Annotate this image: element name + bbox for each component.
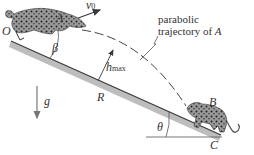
trajectory-label-text: trajectory of	[158, 25, 215, 37]
label-g: g	[44, 95, 50, 107]
label-a: A	[56, 12, 63, 24]
label-v0-sub: 0	[91, 2, 95, 11]
incline-plane	[9, 41, 221, 141]
label-o: O	[2, 25, 11, 37]
label-theta: θ	[157, 121, 163, 133]
trajectory-label: parabolic trajectory of A	[158, 14, 222, 37]
trajectory-label-var: A	[215, 25, 222, 37]
trajectory-label-line1: parabolic	[158, 14, 222, 25]
label-c: C	[210, 139, 218, 151]
label-v0: v0	[86, 0, 95, 11]
label-r: R	[97, 91, 104, 103]
label-hmax: hmax	[106, 61, 126, 73]
cheetah-a-leaping	[6, 8, 86, 40]
label-hmax-sub: max	[112, 64, 126, 73]
label-b: B	[209, 96, 216, 108]
trajectory-label-line2: trajectory of A	[158, 26, 222, 37]
label-beta: β	[52, 42, 58, 54]
